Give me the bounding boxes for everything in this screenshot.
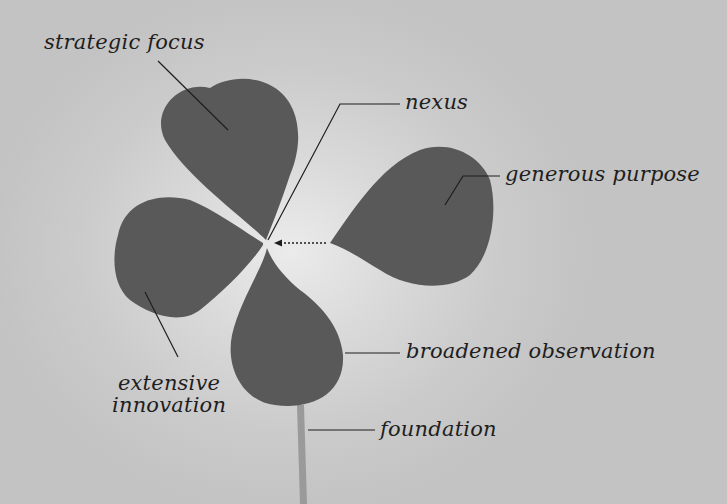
label-nexus: nexus — [405, 92, 468, 113]
stem — [297, 405, 307, 504]
arrowhead-icon — [274, 240, 282, 247]
label-foundation: foundation — [380, 419, 497, 440]
leaf-right — [330, 147, 493, 286]
leaf-bottom — [231, 248, 343, 406]
label-generous-purpose: generous purpose — [505, 164, 700, 185]
clover-illustration — [0, 0, 727, 504]
label-extensive-innovation-line1: extensive — [112, 372, 226, 394]
label-broadened-observation: broadened observation — [406, 341, 656, 362]
label-extensive-innovation-line2: innovation — [112, 394, 226, 416]
label-extensive-innovation: extensive innovation — [112, 372, 226, 416]
label-strategic-focus: strategic focus — [44, 32, 205, 53]
clover-diagram: strategic focus nexus generous purpose e… — [0, 0, 727, 504]
